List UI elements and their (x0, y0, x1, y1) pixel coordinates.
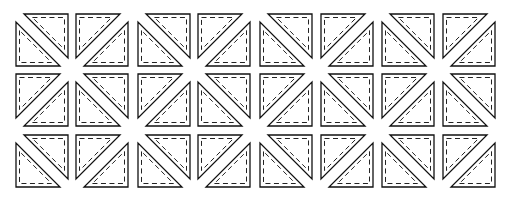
hst-quilt-diagram (0, 0, 505, 201)
hst-unit-backslash (16, 14, 68, 66)
hst-unit-slash (76, 14, 128, 66)
hst-unit-slash (321, 135, 373, 187)
hst-unit-slash (16, 74, 68, 126)
hst-unit-slash (198, 135, 250, 187)
hst-unit-backslash (198, 74, 250, 126)
hst-unit-backslash (16, 135, 68, 187)
hst-unit-backslash (382, 135, 434, 187)
hst-unit-slash (443, 14, 495, 66)
hst-unit-backslash (76, 74, 128, 126)
hst-unit-slash (198, 14, 250, 66)
hst-unit-slash (138, 74, 190, 126)
hst-unit-backslash (382, 14, 434, 66)
hst-unit-backslash (321, 74, 373, 126)
hst-unit-backslash (138, 14, 190, 66)
hst-unit-slash (382, 74, 434, 126)
hst-unit-slash (76, 135, 128, 187)
hst-unit-slash (321, 14, 373, 66)
hst-unit-backslash (260, 14, 312, 66)
hst-unit-slash (443, 135, 495, 187)
hst-unit-backslash (260, 135, 312, 187)
hst-unit-slash (260, 74, 312, 126)
hst-unit-backslash (443, 74, 495, 126)
hst-unit-backslash (138, 135, 190, 187)
